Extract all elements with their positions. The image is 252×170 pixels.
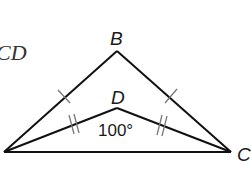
- angle-d-label: 100°: [98, 121, 133, 140]
- vertex-label-d: D: [111, 87, 125, 108]
- vertex-label-b: B: [110, 28, 123, 49]
- segment-dc: [117, 108, 231, 152]
- vertex-label-c: C: [237, 144, 251, 165]
- geometry-figure: CD B D C 100°: [0, 0, 252, 170]
- segment-bc: [117, 51, 231, 152]
- problem-text-fragment: CD: [0, 40, 27, 65]
